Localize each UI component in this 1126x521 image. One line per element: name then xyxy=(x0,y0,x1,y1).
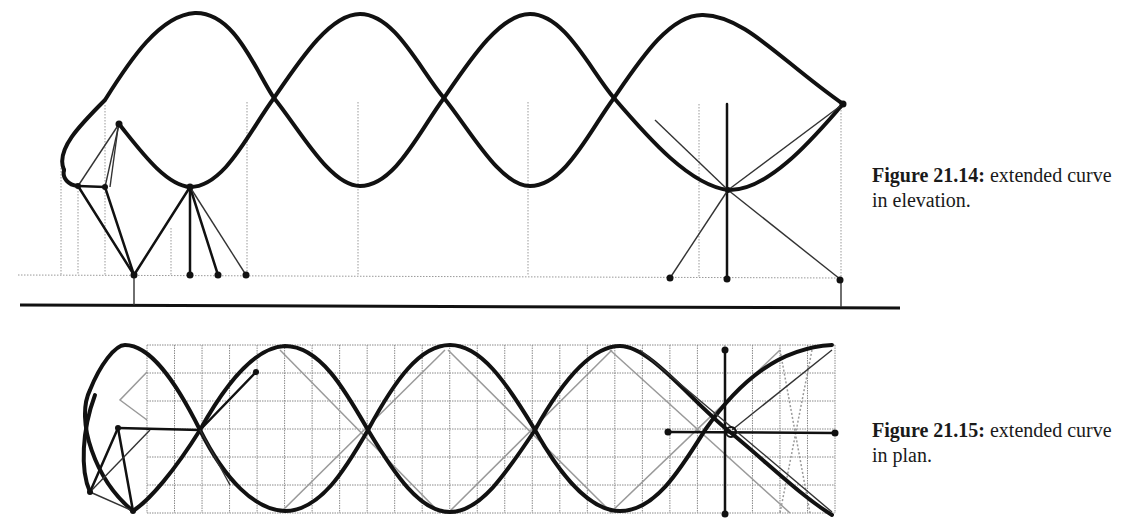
plan-drawing xyxy=(0,330,860,521)
figure-elevation xyxy=(0,0,905,320)
caption-number: Figure 21.14: xyxy=(872,164,985,186)
caption-figure-21-15: Figure 21.15: extended curve in plan. xyxy=(872,418,1122,468)
construction-lines-plan xyxy=(90,350,835,514)
caption-number: Figure 21.15: xyxy=(872,419,985,441)
figure-plan xyxy=(0,330,860,521)
guide-lines xyxy=(18,102,841,278)
elevation-drawing xyxy=(0,0,905,320)
ground-line xyxy=(20,305,900,308)
caption-figure-21-14: Figure 21.14: extended curve in elevatio… xyxy=(872,163,1122,213)
